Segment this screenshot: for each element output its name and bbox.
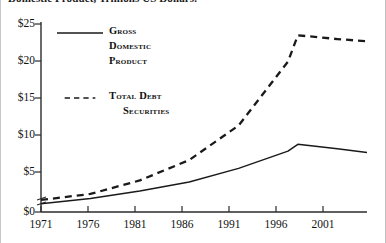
y-tick-label-5: $5 xyxy=(1,165,35,177)
legend-label-gdp-line1: Gross xyxy=(109,25,136,36)
y-tick-marks xyxy=(35,24,41,212)
y-tick-label-25: $25 xyxy=(1,17,35,29)
x-tick-label-1996: 1996 xyxy=(251,218,301,230)
x-tick-label-1971: 1971 xyxy=(16,218,66,230)
x-tick-label-1976: 1976 xyxy=(63,218,113,230)
solid-line-swatch-icon xyxy=(57,32,103,34)
y-tick-label-10: $10 xyxy=(1,128,35,140)
x-tick-label-2001: 2001 xyxy=(298,218,348,230)
y-tick-label-0: $0 xyxy=(1,205,35,217)
plot-area: $25 $20 $15 $10 $5 $0 1971 1976 1981 198… xyxy=(1,0,386,243)
x-tick-marks xyxy=(41,206,323,212)
legend-label-debt-line2: Securities xyxy=(123,105,169,116)
x-tick-label-1981: 1981 xyxy=(110,218,160,230)
series-line-total-debt-securities xyxy=(41,35,367,200)
legend-label-gdp-line3: Product xyxy=(109,55,147,66)
legend-label-debt-line1: Total Debt xyxy=(109,90,162,101)
legend-label-gdp-line2: Domestic xyxy=(109,40,151,51)
chart-figure: Domestic Product, Trillions US Dollars. xyxy=(0,0,386,243)
dashed-line-swatch-icon xyxy=(57,97,103,99)
x-tick-label-1991: 1991 xyxy=(204,218,254,230)
y-tick-label-15: $15 xyxy=(1,91,35,103)
chart-svg xyxy=(1,0,386,243)
x-tick-label-1986: 1986 xyxy=(157,218,207,230)
y-tick-label-20: $20 xyxy=(1,54,35,66)
